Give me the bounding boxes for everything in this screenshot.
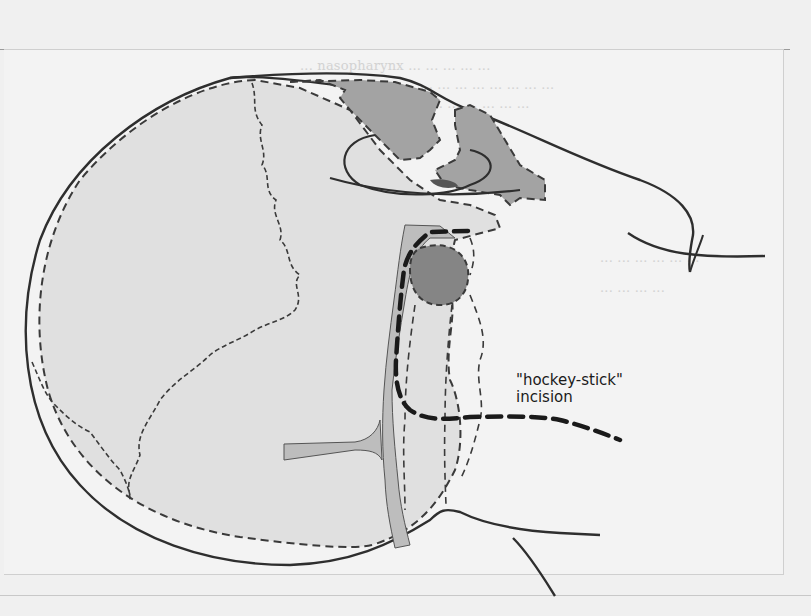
nasal-cavity [435,105,545,205]
neck-outline [513,538,555,596]
vessel-line-4 [470,238,474,275]
mass-region [410,245,468,305]
incision-label-line1: "hockey-stick" [516,372,623,389]
vessel-line-3 [460,295,483,480]
anatomy-diagram [0,0,811,616]
scanned-page: ... nasopharynx ... ... ... ... ... ... … [0,0,811,616]
incision-label-line2: incision [516,389,623,406]
incision-label: "hockey-stick" incision [516,372,623,406]
